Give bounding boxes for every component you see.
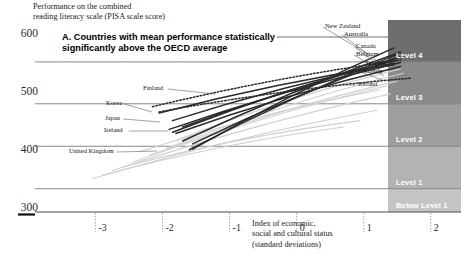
band-label-below-level-1: Below Level 1 bbox=[396, 201, 448, 210]
y-tick-400: 400 bbox=[12, 143, 38, 155]
country-label-iceland: Iceland bbox=[358, 80, 377, 87]
y-tick-300: 300 bbox=[12, 201, 38, 213]
band-label-level-1: Level 1 bbox=[396, 178, 422, 187]
band-label-level-4: Level 4 bbox=[396, 51, 422, 60]
y-tick-500: 500 bbox=[12, 85, 38, 97]
leader-line bbox=[124, 104, 152, 112]
country-label-united-kingdom: United Kingdom bbox=[69, 147, 114, 154]
country-label-japan: Japan bbox=[105, 114, 120, 121]
x-tick-2: 2 bbox=[434, 222, 439, 233]
country-label-finland: Finland bbox=[143, 84, 163, 91]
y-tick-600: 600 bbox=[12, 27, 38, 39]
country-label-sweden: Sweden bbox=[365, 59, 386, 66]
background-country-line bbox=[139, 90, 381, 152]
x-tick--3: -3 bbox=[98, 222, 106, 233]
x-tick--1: -1 bbox=[233, 222, 241, 233]
plot-area bbox=[0, 0, 461, 255]
country-label-austria: Austria bbox=[363, 67, 382, 74]
chart-figure: Performance on the combined reading lite… bbox=[0, 0, 461, 255]
band-label-level-3: Level 3 bbox=[396, 93, 422, 102]
x-tick--2: -2 bbox=[165, 222, 173, 233]
x-axis-caption: Index of economic, social and cultural s… bbox=[252, 219, 333, 250]
leader-line bbox=[117, 151, 158, 152]
band-label-level-5: Level 5 bbox=[396, 9, 422, 18]
country-label-australia: Australia bbox=[344, 30, 368, 37]
country-label-ireland: Ireland bbox=[104, 126, 123, 133]
x-tick-1: 1 bbox=[367, 222, 372, 233]
leader-line bbox=[168, 89, 215, 94]
leader-line bbox=[123, 119, 160, 122]
country-label-canada: Canada bbox=[356, 42, 376, 49]
background-country-line bbox=[132, 86, 387, 163]
country-label-korea: Korea bbox=[106, 99, 122, 106]
country-label-new-zealand: New Zealand bbox=[325, 22, 360, 29]
country-label-belgium: Belgium bbox=[356, 50, 379, 57]
band-label-level-2: Level 2 bbox=[396, 135, 422, 144]
